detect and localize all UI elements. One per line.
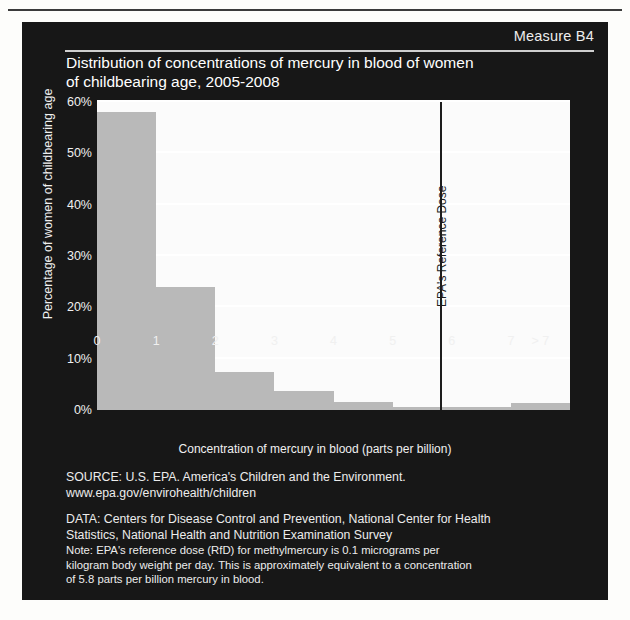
page-root: Measure B4 Distribution of concentration… bbox=[0, 0, 630, 620]
y-tick-60%: 60% bbox=[67, 95, 92, 109]
note-line-2: kilogram body weight per day. This is ap… bbox=[66, 558, 586, 573]
gridline-40 bbox=[97, 203, 570, 205]
bar bbox=[334, 402, 393, 410]
source-block: SOURCE: U.S. EPA. America's Children and… bbox=[66, 470, 586, 501]
x-tick-7: > 7 bbox=[532, 334, 550, 348]
source-line-1: SOURCE: U.S. EPA. America's Children and… bbox=[66, 470, 586, 486]
y-tick-40%: 40% bbox=[67, 198, 92, 212]
figure-panel: Measure B4 Distribution of concentration… bbox=[22, 22, 608, 600]
x-tick-1: 1 bbox=[153, 334, 160, 348]
source-line-2: www.epa.gov/envirohealth/children bbox=[66, 486, 586, 502]
plot-canvas: EPA's Reference Dose bbox=[97, 102, 570, 410]
gridline-60 bbox=[97, 100, 570, 102]
x-tick-0: 0 bbox=[94, 334, 101, 348]
x-tick-4: 4 bbox=[330, 334, 337, 348]
gridline-50 bbox=[97, 151, 570, 153]
x-axis-title: Concentration of mercury in blood (parts… bbox=[22, 442, 608, 456]
bar bbox=[215, 372, 274, 411]
y-tick-10%: 10% bbox=[67, 352, 92, 366]
figure-footer: SOURCE: U.S. EPA. America's Children and… bbox=[66, 470, 586, 587]
y-tick-30%: 30% bbox=[67, 249, 92, 263]
x-tick-2: 2 bbox=[212, 334, 219, 348]
bar bbox=[511, 403, 570, 410]
bar bbox=[274, 391, 333, 411]
y-tick-50%: 50% bbox=[67, 146, 92, 160]
y-axis-tick-labels: 0%10%20%30%40%50%60% bbox=[42, 102, 92, 410]
epa-reference-dose-label: EPA's Reference Dose bbox=[435, 186, 449, 307]
page-top-rule bbox=[8, 9, 622, 11]
note-block: Note: EPA's reference dose (RfD) for met… bbox=[66, 543, 586, 587]
x-tick-6: 6 bbox=[448, 334, 455, 348]
bar bbox=[452, 407, 511, 410]
note-line-1: Note: EPA's reference dose (RfD) for met… bbox=[66, 543, 586, 558]
gridline-30 bbox=[97, 254, 570, 256]
x-tick-3: 3 bbox=[271, 334, 278, 348]
data-block: DATA: Centers for Disease Control and Pr… bbox=[66, 512, 586, 543]
x-tick-5: 5 bbox=[389, 334, 396, 348]
note-line-3: of 5.8 parts per billion mercury in bloo… bbox=[66, 572, 586, 587]
y-tick-0%: 0% bbox=[74, 403, 92, 417]
y-tick-20%: 20% bbox=[67, 300, 92, 314]
bar bbox=[156, 287, 215, 410]
bar bbox=[393, 407, 452, 410]
x-tick-7: 7 bbox=[507, 334, 514, 348]
data-line-2: Statistics, National Health and Nutritio… bbox=[66, 528, 586, 544]
data-line-1: DATA: Centers for Disease Control and Pr… bbox=[66, 512, 586, 528]
bar bbox=[97, 112, 156, 410]
